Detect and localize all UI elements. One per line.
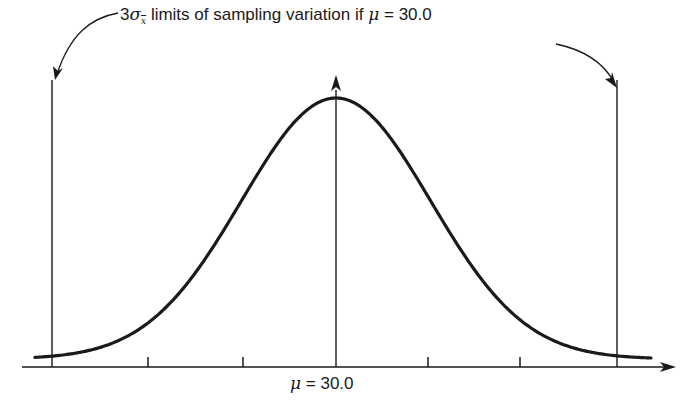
left-leader-arrowhead-icon (53, 66, 63, 80)
sigma-subscript: x (141, 16, 146, 26)
mean-line (331, 75, 341, 367)
annotation-equals: = (379, 5, 398, 24)
sigma-symbol: σ (129, 4, 141, 24)
annotation-label: 3σx limits of sampling variation if μ = … (120, 4, 432, 25)
left-leader-curve (57, 13, 118, 74)
right-leader-arrowhead-icon (605, 72, 617, 88)
sigma-ticks (148, 357, 520, 367)
right-leader-curve (556, 44, 614, 82)
diagram-canvas (0, 0, 698, 414)
axis-equals: = (301, 374, 320, 393)
mean-arrow-icon (331, 75, 341, 91)
normal-curve (35, 98, 651, 358)
annotation-text: limits of sampling variation if (146, 5, 368, 24)
annotation-value: 30.0 (399, 5, 432, 24)
three-sigma-limit-lines (52, 80, 617, 367)
x-axis-label: μ = 30.0 (290, 373, 354, 394)
x-axis (22, 362, 676, 372)
annotation-mu: μ (368, 4, 379, 24)
axis-mu: μ (290, 373, 301, 393)
sampling-distribution-diagram: 3σx limits of sampling variation if μ = … (0, 0, 698, 414)
axis-value: 30.0 (320, 374, 353, 393)
